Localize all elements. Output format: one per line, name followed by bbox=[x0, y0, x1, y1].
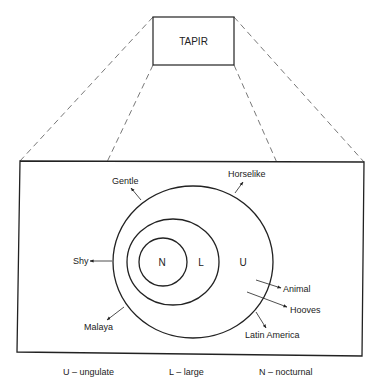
attribute-animal: Animal bbox=[283, 284, 311, 294]
attribute-gentle: Gentle bbox=[112, 176, 139, 186]
attribute-hooves: Hooves bbox=[290, 305, 321, 315]
expanded-concept-box bbox=[17, 161, 364, 356]
attribute-horselike: Horselike bbox=[228, 169, 266, 179]
tapir-box: TAPIR bbox=[153, 17, 234, 65]
legend-nocturnal: N – nocturnal bbox=[259, 367, 313, 377]
legend-large: L – large bbox=[169, 367, 204, 377]
projection-line-outer-right bbox=[234, 17, 364, 162]
attribute-malaya: Malaya bbox=[84, 322, 113, 332]
projection-line-outer-left bbox=[20, 17, 153, 161]
legend: U – ungulate L – large N – nocturnal bbox=[63, 367, 313, 377]
region-label-u: U bbox=[239, 257, 246, 268]
tapir-concept-diagram: TAPIR N L U Gentle Horselike Shy Malaya … bbox=[0, 0, 377, 388]
region-label-l: L bbox=[198, 257, 204, 268]
legend-ungulate: U – ungulate bbox=[63, 367, 114, 377]
region-label-n: N bbox=[158, 257, 165, 268]
attribute-latin-america: Latin America bbox=[245, 330, 300, 340]
attribute-shy: Shy bbox=[73, 256, 89, 266]
tapir-label: TAPIR bbox=[179, 36, 208, 47]
